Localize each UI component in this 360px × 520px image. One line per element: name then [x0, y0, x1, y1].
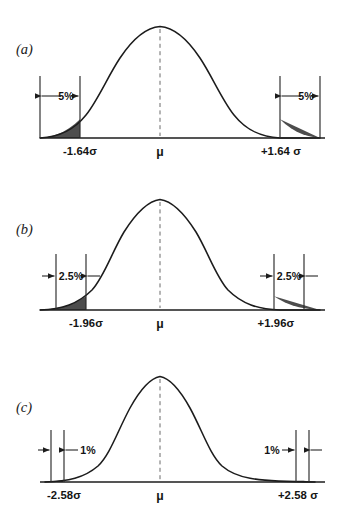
panel-b: 2.5% 2.5% -1.96σ μ +1.96σ (b) — [0, 172, 360, 345]
left-tail-percent-label: 5% — [58, 90, 74, 102]
bell-curve — [40, 200, 320, 311]
normal-distribution-figure: 5% 5% -1.64σ μ +1.64 σ (a) — [0, 0, 360, 520]
right-critical-value-label: +1.96σ — [258, 317, 295, 329]
right-tail-percent-label: 5% — [298, 90, 314, 102]
left-critical-value-label: -1.96σ — [69, 317, 103, 329]
bell-curve — [40, 27, 320, 139]
right-tail-percent-label: 1% — [264, 444, 280, 456]
left-tail-percent-label: 1% — [80, 444, 96, 456]
panel-b-chart: 2.5% 2.5% -1.96σ μ +1.96σ (b) — [0, 172, 360, 345]
bell-curve — [45, 377, 315, 483]
left-tail-percent-label: 2.5% — [59, 270, 84, 282]
right-tail-shaded-region — [280, 119, 320, 138]
right-tail-percent-label: 2.5% — [277, 270, 302, 282]
right-critical-value-label: +2.58 σ — [278, 489, 318, 501]
mean-label: μ — [156, 317, 163, 331]
panel-c-chart: 1% 1% -2.58σ μ +2.58 σ (c) — [0, 344, 360, 517]
panel-a-chart: 5% 5% -1.64σ μ +1.64 σ (a) — [0, 0, 360, 173]
left-critical-value-label: -2.58σ — [47, 489, 81, 501]
right-critical-value-label: +1.64 σ — [261, 145, 301, 157]
mean-label: μ — [156, 489, 163, 503]
panel-letter-a: (a) — [16, 41, 33, 58]
panel-letter-b: (b) — [16, 221, 33, 238]
right-tail-shaded-region — [274, 296, 320, 310]
panel-letter-c: (c) — [16, 399, 32, 416]
left-tail-shaded-region — [40, 119, 80, 138]
panel-c: 1% 1% -2.58σ μ +2.58 σ (c) — [0, 344, 360, 517]
left-tail-shaded-region — [40, 296, 86, 310]
left-critical-value-label: -1.64σ — [63, 145, 97, 157]
mean-label: μ — [156, 145, 163, 159]
panel-a: 5% 5% -1.64σ μ +1.64 σ (a) — [0, 0, 360, 173]
